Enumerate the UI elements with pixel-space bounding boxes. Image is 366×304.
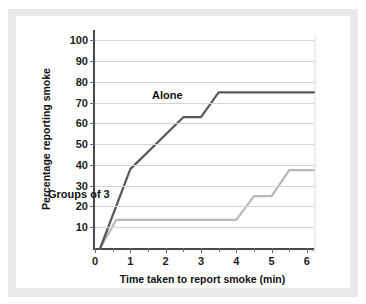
x-axis-tick	[307, 248, 308, 253]
y-axis-tick	[90, 103, 94, 104]
x-axis-minor-tick	[219, 248, 220, 252]
x-axis-tick-label: 0	[92, 256, 98, 267]
gridline	[95, 123, 314, 124]
x-axis-tick	[236, 248, 237, 253]
x-axis-title: Time taken to report smoke (min)	[93, 273, 312, 285]
series-lines	[95, 30, 314, 248]
gridline	[95, 186, 314, 187]
gridline	[95, 144, 314, 145]
gridline	[95, 82, 314, 83]
gridline	[95, 165, 314, 166]
y-axis-tick-label: 50	[76, 139, 88, 150]
y-axis-tick-label: 70	[76, 97, 88, 108]
y-axis-tick	[90, 227, 94, 228]
gridline	[95, 206, 314, 207]
gridline	[95, 103, 314, 104]
y-axis-tick	[90, 123, 94, 124]
series-annotation-groups: Groups of 3	[48, 189, 110, 200]
series-line-alone	[100, 92, 314, 248]
x-axis-tick	[130, 248, 131, 253]
x-axis-tick-label: 4	[233, 256, 239, 267]
chart-figure: 1020304050607080901000123456 Alone Group…	[0, 0, 366, 304]
y-axis-tick	[90, 40, 94, 41]
y-axis-tick-label: 60	[76, 118, 88, 129]
x-axis-tick-label: 5	[269, 256, 275, 267]
y-axis-tick-label: 40	[76, 159, 88, 170]
y-axis-tick	[90, 186, 94, 187]
y-axis-tick	[90, 206, 94, 207]
y-axis-tick	[90, 165, 94, 166]
x-axis-tick-label: 2	[163, 256, 169, 267]
x-axis-tick	[95, 248, 96, 253]
gridline	[95, 227, 314, 228]
x-axis-minor-tick	[113, 248, 114, 252]
x-axis-tick-label: 1	[127, 256, 133, 267]
y-axis-tick	[90, 144, 94, 145]
gridline	[95, 61, 314, 62]
x-axis-tick-label: 3	[198, 256, 204, 267]
plot-area: 1020304050607080901000123456	[93, 30, 314, 250]
x-axis-tick	[201, 248, 202, 253]
x-axis-minor-tick	[254, 248, 255, 252]
y-axis-tick-label: 90	[76, 56, 88, 67]
gridline	[95, 40, 314, 41]
series-line-groups-of-3	[100, 170, 314, 248]
x-axis-minor-tick	[148, 248, 149, 252]
y-axis-tick-label: 100	[70, 35, 88, 46]
y-axis-tick-label: 80	[76, 76, 88, 87]
y-axis-tick-label: 10	[76, 222, 88, 233]
x-axis-tick-label: 6	[304, 256, 310, 267]
x-axis-minor-tick	[183, 248, 184, 252]
x-axis-minor-tick	[289, 248, 290, 252]
y-axis-tick	[90, 82, 94, 83]
x-axis-tick	[166, 248, 167, 253]
y-axis-tick	[90, 61, 94, 62]
x-axis-tick	[272, 248, 273, 253]
y-axis-tick-label: 20	[76, 201, 88, 212]
y-axis-title: Percentage reporting smoke	[40, 68, 52, 210]
series-annotation-alone: Alone	[152, 90, 183, 101]
